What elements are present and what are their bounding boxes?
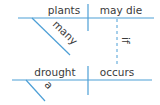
sentence-diagram: plants may die many if drought occurs a	[0, 0, 160, 105]
main-subject: plants	[48, 4, 80, 16]
main-predicate: may die	[100, 4, 142, 16]
main-subject-modifier: many	[51, 18, 81, 47]
modifier-line-a	[26, 80, 45, 101]
subordinate-predicate: occurs	[100, 66, 134, 78]
subordinate-subject: drought	[34, 66, 75, 78]
connector-word: if	[120, 37, 132, 44]
